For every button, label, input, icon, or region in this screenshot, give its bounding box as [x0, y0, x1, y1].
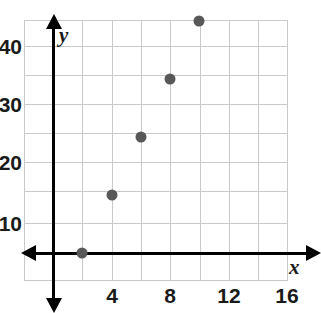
y-axis-label: y: [59, 25, 68, 46]
gridline-vertical: [229, 21, 230, 280]
data-point: [165, 74, 176, 85]
y-tick-label: 30: [0, 94, 22, 115]
gridline-horizontal: [25, 191, 287, 192]
gridline-horizontal: [25, 104, 287, 105]
data-point: [77, 248, 88, 259]
x-axis-arrow-right-icon: [306, 245, 321, 261]
gridline-vertical: [170, 21, 171, 280]
y-axis-arrow-down-icon: [46, 298, 62, 313]
data-point: [106, 190, 117, 201]
x-tick-label: 16: [275, 285, 298, 306]
gridline-horizontal: [25, 133, 287, 134]
gridline-vertical: [258, 21, 259, 280]
gridline-vertical: [200, 21, 201, 280]
data-point: [135, 132, 146, 143]
x-axis-arrow-left-icon: [21, 245, 36, 261]
x-tick-label: 12: [217, 285, 240, 306]
y-tick-label: 10: [0, 213, 22, 234]
gridline-horizontal: [25, 75, 287, 76]
y-tick-label: 20: [0, 152, 22, 173]
gridline-horizontal: [25, 223, 287, 224]
plot-area: y x 40 30 20 10 4 8 12 16: [24, 20, 288, 281]
gridline-horizontal: [25, 162, 287, 163]
gridline-vertical: [287, 21, 288, 280]
gridline-vertical: [141, 21, 142, 280]
x-tick-label: 4: [106, 285, 118, 306]
x-axis-line: [29, 252, 311, 255]
y-axis-line: [52, 27, 55, 305]
y-tick-label: 40: [0, 36, 22, 57]
x-axis-label: x: [289, 257, 300, 278]
x-tick-label: 8: [164, 285, 176, 306]
data-point: [194, 16, 205, 27]
gridline-vertical: [82, 21, 83, 280]
gridline-vertical: [112, 21, 113, 280]
